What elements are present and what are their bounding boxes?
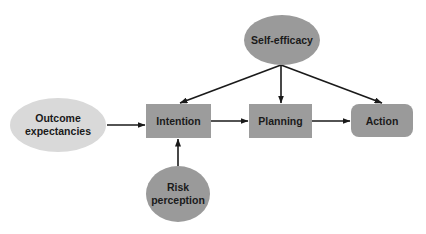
intention-label: Intention [156,115,200,127]
outcome-expectancies-label-line2: expectancies [25,125,91,137]
node-self-efficacy: Self-efficacy [244,15,320,65]
node-intention: Intention [146,104,211,138]
node-planning: Planning [249,104,312,138]
hapa-model-diagram: Outcome expectancies Intention Planning … [0,0,426,234]
self-efficacy-label: Self-efficacy [251,34,313,46]
risk-perception-label-line1: Risk [167,181,189,193]
outcome-expectancies-label-line1: Outcome [35,112,81,124]
node-action: Action [351,104,413,137]
edge-selfefficacy-to-action [281,65,382,103]
node-risk-perception: Risk perception [146,166,210,222]
node-outcome-expectancies: Outcome expectancies [10,98,106,152]
planning-label: Planning [258,115,302,127]
action-label: Action [366,115,399,127]
risk-perception-label-line2: perception [151,194,205,206]
edge-selfefficacy-to-intention [180,65,281,103]
